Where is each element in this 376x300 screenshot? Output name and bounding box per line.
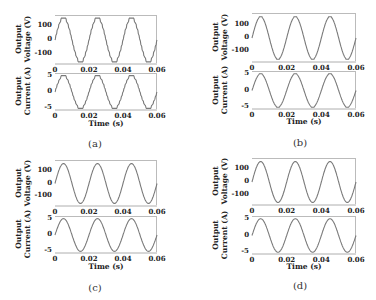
x-tick-label: 0.02 [278,206,295,215]
voltage-waveform [55,161,157,206]
ylabel-line2: Voltage (V) [23,9,32,69]
x-tick-label: 0.06 [148,207,165,216]
ylabel-line2: Current (A) [23,204,32,264]
x-tick-label: 0 [53,207,58,216]
voltage-plot [55,160,157,205]
panel-caption: (b) [293,137,307,148]
current-axis-label: OutputCurrent (A) [14,61,32,121]
panel-caption: (c) [88,282,101,293]
ylabel-line1: Output [211,205,220,265]
x-tick-label: 0.06 [347,206,364,215]
current-waveform [252,217,356,254]
panel-caption: (a) [88,138,102,149]
ylabel-line2: Voltage (V) [220,7,229,67]
x-tick-label: 0 [250,206,255,215]
time-axis-label: Time (s) [88,119,123,128]
voltage-waveform [252,159,356,205]
time-axis-label: Time (s) [286,262,321,271]
time-axis-label: Time (s) [286,117,321,126]
ylabel-line1: Output [211,151,220,211]
current-plot [252,71,356,108]
ylabel-line1: Output [14,9,23,69]
x-tick-label: 0 [250,255,255,264]
current-axis-label: OutputCurrent (A) [14,204,32,264]
current-axis-label: OutputCurrent (A) [211,205,229,265]
x-tick-label: 0.06 [148,111,165,120]
voltage-plot [252,13,356,61]
ylabel-line1: Output [14,204,23,264]
x-tick-label: 0.06 [148,254,165,263]
ylabel-line1: Output [211,60,220,120]
voltage-plot [55,15,157,63]
voltage-waveform [252,14,356,62]
time-axis-label: Time (s) [88,262,123,271]
ylabel-line2: Current (A) [23,61,32,121]
x-tick-label: 0.02 [80,207,97,216]
ylabel-line1: Output [211,7,220,67]
voltage-plot [252,158,356,204]
current-waveform [55,217,157,253]
panel-caption: (d) [293,280,307,291]
voltage-axis-label: OutputVoltage (V) [211,7,229,67]
current-waveform [55,74,157,110]
ylabel-line2: Voltage (V) [220,151,229,211]
voltage-axis-label: OutputVoltage (V) [211,151,229,211]
x-tick-label: 0.04 [114,207,131,216]
voltage-axis-label: OutputVoltage (V) [14,9,32,69]
ylabel-line1: Output [14,61,23,121]
voltage-waveform [55,16,157,64]
x-tick-label: 0.06 [347,255,364,264]
ylabel-line2: Current (A) [220,205,229,265]
x-tick-label: 0 [53,254,58,263]
current-plot [252,216,356,253]
current-plot [55,73,157,109]
x-tick-label: 0.06 [347,110,364,119]
x-tick-label: 0 [250,110,255,119]
x-tick-label: 0 [53,111,58,120]
current-plot [55,216,157,252]
current-axis-label: OutputCurrent (A) [211,60,229,120]
x-tick-label: 0.04 [313,206,330,215]
current-waveform [252,72,356,109]
ylabel-line2: Current (A) [220,60,229,120]
